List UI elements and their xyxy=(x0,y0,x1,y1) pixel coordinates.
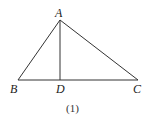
segment-ac xyxy=(60,20,138,80)
label-b: B xyxy=(10,83,17,95)
label-a: A xyxy=(55,7,62,19)
label-d: D xyxy=(56,83,65,95)
figure-caption: (1) xyxy=(66,103,79,114)
segment-ab xyxy=(18,20,60,80)
label-c: C xyxy=(133,83,141,95)
